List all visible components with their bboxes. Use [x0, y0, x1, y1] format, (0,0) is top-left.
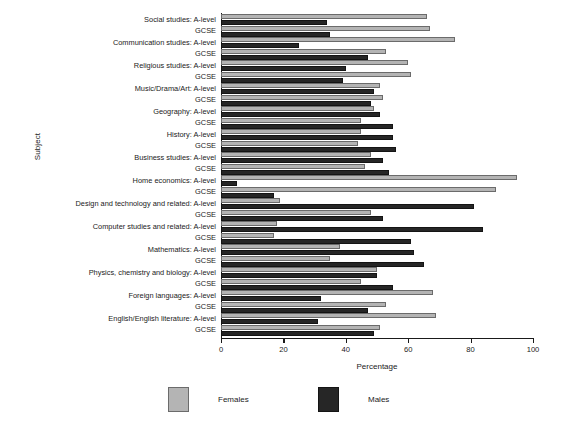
category-label: GCSE: [18, 50, 216, 58]
bar-males: [221, 78, 343, 83]
x-axis-line: [221, 338, 533, 339]
bar-females: [221, 60, 408, 65]
category-label: GCSE: [18, 165, 216, 173]
bar-chart-figure: Subject Social studies: A-levelGCSECommu…: [0, 0, 562, 425]
category-label: Mathematics: A-level: [18, 246, 216, 254]
category-label: Physics, chemistry and biology: A-level: [18, 269, 216, 277]
bar-females: [221, 325, 380, 330]
x-tick-label: 80: [456, 345, 486, 354]
bar-females: [221, 302, 386, 307]
bar-males: [221, 32, 330, 37]
category-label: GCSE: [18, 234, 216, 242]
bar-males: [221, 319, 318, 324]
x-tick-mark: [346, 338, 347, 343]
bar-females: [221, 187, 496, 192]
bar-females: [221, 256, 330, 261]
bar-males: [221, 239, 411, 244]
category-label: GCSE: [18, 142, 216, 150]
category-label: GCSE: [18, 119, 216, 127]
legend-swatch-males: [318, 387, 339, 412]
legend-label-females: Females: [218, 395, 249, 404]
x-tick-mark: [471, 338, 472, 343]
bar-females: [221, 164, 365, 169]
x-tick-mark: [408, 338, 409, 343]
bar-males: [221, 66, 346, 71]
bar-females: [221, 14, 427, 19]
bar-males: [221, 204, 474, 209]
bar-males: [221, 193, 274, 198]
x-tick-label: 20: [268, 345, 298, 354]
category-label: Social studies: A-level: [18, 16, 216, 24]
x-tick-label: 100: [518, 345, 548, 354]
bar-males: [221, 124, 393, 129]
bar-males: [221, 43, 299, 48]
bar-males: [221, 296, 321, 301]
category-label: Religious studies: A-level: [18, 62, 216, 70]
bar-males: [221, 112, 380, 117]
bar-females: [221, 72, 411, 77]
bar-males: [221, 89, 374, 94]
category-label: Home economics: A-level: [18, 177, 216, 185]
bar-males: [221, 170, 389, 175]
category-label: GCSE: [18, 211, 216, 219]
bar-females: [221, 267, 377, 272]
bar-females: [221, 152, 371, 157]
x-tick-mark: [533, 338, 534, 343]
bar-females: [221, 244, 340, 249]
category-label: Geography: A-level: [18, 108, 216, 116]
bar-males: [221, 181, 237, 186]
bar-males: [221, 250, 414, 255]
bar-males: [221, 20, 327, 25]
bar-females: [221, 129, 361, 134]
plot-area: [221, 14, 533, 336]
category-label: GCSE: [18, 303, 216, 311]
category-label: GCSE: [18, 73, 216, 81]
bar-females: [221, 279, 361, 284]
chart-legend: Females Males: [0, 386, 562, 420]
bar-males: [221, 227, 483, 232]
bar-males: [221, 101, 371, 106]
legend-label-males: Males: [368, 395, 389, 404]
category-label: Computer studies and related: A-level: [18, 223, 216, 231]
bar-females: [221, 210, 371, 215]
bar-females: [221, 175, 517, 180]
category-label: GCSE: [18, 280, 216, 288]
bar-males: [221, 331, 374, 336]
bar-females: [221, 221, 277, 226]
bar-females: [221, 290, 433, 295]
bar-females: [221, 83, 380, 88]
x-tick-label: 40: [331, 345, 361, 354]
bar-males: [221, 285, 393, 290]
bar-males: [221, 273, 377, 278]
bar-males: [221, 147, 396, 152]
category-label: GCSE: [18, 96, 216, 104]
bar-females: [221, 95, 383, 100]
bar-females: [221, 106, 374, 111]
bar-females: [221, 313, 436, 318]
category-label: GCSE: [18, 27, 216, 35]
bar-males: [221, 262, 424, 267]
category-label: Foreign languages: A-level: [18, 292, 216, 300]
category-label: Communication studies: A-level: [18, 39, 216, 47]
bar-females: [221, 233, 274, 238]
bar-females: [221, 49, 386, 54]
category-label: English/English literature: A-level: [18, 315, 216, 323]
category-label: History: A-level: [18, 131, 216, 139]
bar-males: [221, 55, 368, 60]
category-label: GCSE: [18, 326, 216, 334]
bar-females: [221, 198, 280, 203]
bar-males: [221, 135, 393, 140]
x-axis-title: Percentage: [221, 362, 533, 371]
bar-males: [221, 308, 368, 313]
category-label: Design and technology and related: A-lev…: [18, 200, 216, 208]
bar-males: [221, 158, 383, 163]
category-label: GCSE: [18, 188, 216, 196]
bar-males: [221, 216, 383, 221]
category-axis-labels: Social studies: A-levelGCSECommunication…: [18, 14, 216, 336]
x-tick-label: 0: [206, 345, 236, 354]
category-label: Business studies: A-level: [18, 154, 216, 162]
bar-females: [221, 26, 430, 31]
bar-females: [221, 141, 358, 146]
category-label: GCSE: [18, 257, 216, 265]
x-tick-label: 60: [393, 345, 423, 354]
